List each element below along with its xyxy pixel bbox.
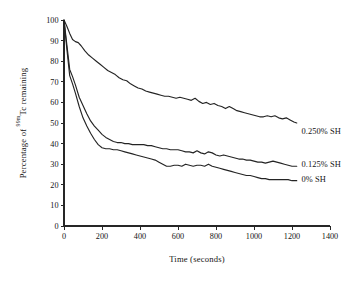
axis-ticks — [61, 20, 331, 230]
axes — [64, 20, 330, 226]
chart-figure: 0102030405060708090100020040060080010001… — [0, 0, 360, 282]
x-tick-label: 600 — [172, 232, 184, 241]
axis-tick-labels: 0102030405060708090100020040060080010001… — [46, 16, 338, 241]
x-tick-label: 0 — [62, 232, 66, 241]
series-line-3 — [64, 20, 297, 181]
y-tick-label: 40 — [50, 140, 58, 149]
y-tick-label: 90 — [50, 37, 58, 46]
axis-titles: Time (seconds)Percentage of 99mTc remain… — [15, 67, 224, 264]
series-labels: 0.250% SH0.125% SH0% SH — [302, 127, 342, 183]
x-tick-label: 1000 — [246, 232, 262, 241]
x-tick-label: 800 — [210, 232, 222, 241]
line-chart: 0102030405060708090100020040060080010001… — [0, 0, 360, 282]
series-label-3: 0% SH — [302, 175, 326, 184]
y-tick-label: 100 — [46, 16, 58, 25]
y-tick-label: 50 — [50, 119, 58, 128]
series-label-1: 0.250% SH — [302, 127, 342, 136]
series-line-1 — [64, 20, 297, 123]
y-tick-label: 20 — [50, 181, 58, 190]
y-tick-label: 70 — [50, 78, 58, 87]
y-tick-label: 30 — [50, 160, 58, 169]
data-series — [64, 20, 297, 181]
x-tick-label: 1400 — [322, 232, 338, 241]
x-tick-label: 200 — [96, 232, 108, 241]
series-line-2 — [64, 20, 297, 166]
y-tick-label: 10 — [50, 201, 58, 210]
y-tick-label: 0 — [54, 222, 58, 231]
y-axis-title: Percentage of 99mTc remaining — [15, 67, 28, 178]
x-axis-title: Time (seconds) — [169, 254, 225, 264]
y-tick-label: 60 — [50, 98, 58, 107]
y-tick-label: 80 — [50, 57, 58, 66]
x-tick-label: 400 — [134, 232, 146, 241]
x-tick-label: 1200 — [284, 232, 300, 241]
series-label-2: 0.125% SH — [302, 160, 342, 169]
